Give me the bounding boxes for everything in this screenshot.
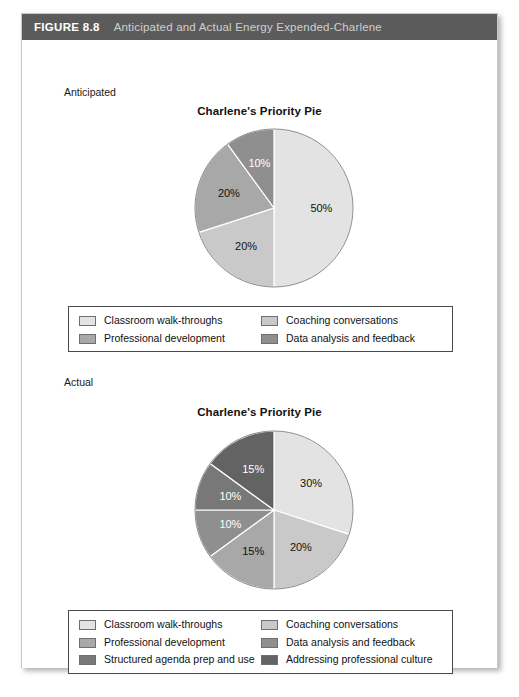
legend-item: Classroom walk-throughs	[79, 617, 257, 632]
legend-label: Coaching conversations	[286, 617, 398, 632]
figure-caption: Anticipated and Actual Energy Expended-C…	[114, 21, 382, 33]
legend-item: Coaching conversations	[261, 313, 444, 328]
legend-swatch-icon	[79, 620, 96, 630]
pie-slice-label: 15%	[242, 545, 264, 557]
pie-slice-label: 20%	[235, 240, 257, 252]
section-label-anticipated: Anticipated	[64, 86, 116, 98]
pie-svg: 50%20%20%10%	[194, 128, 354, 288]
pie-slice-label: 10%	[248, 157, 270, 169]
legend-item: Structured agenda prep and use	[79, 652, 257, 667]
legend-label: Data analysis and feedback	[286, 635, 415, 650]
pie-slice-label: 10%	[219, 518, 241, 530]
figure-header: FIGURE 8.8 Anticipated and Actual Energy…	[22, 14, 497, 40]
legend-item: Data analysis and feedback	[261, 331, 444, 346]
legend-label: Addressing professional culture	[286, 652, 433, 667]
figure-card: FIGURE 8.8 Anticipated and Actual Energy…	[21, 13, 498, 668]
pie-svg: 30%20%15%10%10%15%	[194, 430, 354, 590]
legend-swatch-icon	[261, 638, 278, 648]
legend-swatch-icon	[79, 316, 96, 326]
chart-title-anticipated: Charlene's Priority Pie	[22, 105, 497, 117]
legend-label: Coaching conversations	[286, 313, 398, 328]
pie-slice-label: 10%	[219, 490, 241, 502]
legend-item: Addressing professional culture	[261, 652, 444, 667]
pie-slice-label: 15%	[242, 463, 264, 475]
legend-label: Classroom walk-throughs	[104, 313, 222, 328]
legend-item: Professional development	[79, 331, 257, 346]
pie-slice-label: 50%	[310, 202, 332, 214]
legend-label: Professional development	[104, 635, 225, 650]
legend-swatch-icon	[261, 620, 278, 630]
figure-body: Anticipated Charlene's Priority Pie 50%2…	[22, 40, 497, 668]
legend-label: Professional development	[104, 331, 225, 346]
legend-label: Data analysis and feedback	[286, 331, 415, 346]
legend-swatch-icon	[261, 316, 278, 326]
legend-item: Coaching conversations	[261, 617, 444, 632]
pie-slice-label: 30%	[300, 477, 322, 489]
legend-item: Professional development	[79, 635, 257, 650]
legend-label: Classroom walk-throughs	[104, 617, 222, 632]
legend-item: Data analysis and feedback	[261, 635, 444, 650]
pie-chart-anticipated: 50%20%20%10%	[194, 128, 354, 288]
pie-slice-label: 20%	[218, 187, 240, 199]
legend-swatch-icon	[261, 655, 278, 665]
legend-swatch-icon	[79, 638, 96, 648]
legend-item: Classroom walk-throughs	[79, 313, 257, 328]
legend-swatch-icon	[79, 334, 96, 344]
pie-slice-label: 20%	[290, 541, 312, 553]
legend-swatch-icon	[261, 334, 278, 344]
figure-number: FIGURE 8.8	[34, 21, 100, 33]
legend-swatch-icon	[79, 655, 96, 665]
legend-anticipated: Classroom walk-throughsCoaching conversa…	[68, 306, 453, 352]
pie-chart-actual: 30%20%15%10%10%15%	[194, 430, 354, 590]
legend-actual: Classroom walk-throughsCoaching conversa…	[68, 610, 453, 674]
legend-label: Structured agenda prep and use	[104, 652, 255, 667]
section-label-actual: Actual	[64, 376, 93, 388]
chart-title-actual: Charlene's Priority Pie	[22, 406, 497, 418]
